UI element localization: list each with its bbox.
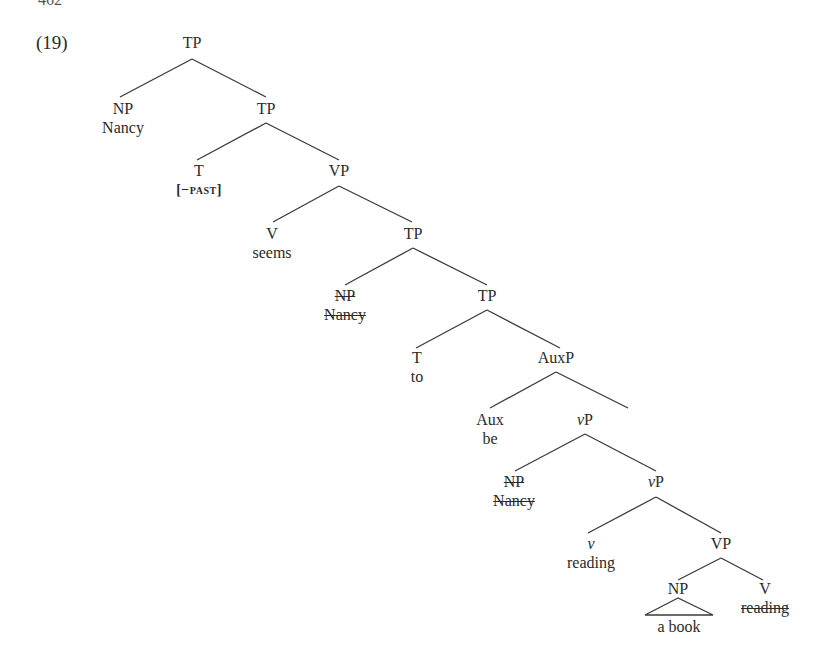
node-label: Aux xyxy=(476,410,504,429)
tree-node-little-vp-1: vP xyxy=(577,410,593,429)
node-label: T xyxy=(411,348,423,367)
node-label: NP xyxy=(102,99,144,118)
tree-node-little-v-reading: v reading xyxy=(567,534,615,572)
node-label: v xyxy=(567,534,615,553)
node-label: V xyxy=(741,579,789,598)
node-word: Nancy xyxy=(102,118,144,137)
tree-node-np-nancy-trace-1: NP Nancy xyxy=(324,286,366,324)
tree-node-t-to: T to xyxy=(411,348,423,386)
node-label: TP xyxy=(183,33,202,52)
node-label: V xyxy=(252,224,291,243)
node-label: vP xyxy=(648,472,664,491)
node-label: TP xyxy=(404,224,423,243)
node-word: [−past] xyxy=(176,180,222,199)
tree-node-v-seems: V seems xyxy=(252,224,291,262)
tree-node-vp-2: VP xyxy=(711,534,731,553)
tree-node-v-reading-trace: V reading xyxy=(741,579,789,617)
tree-node-tp-root: TP xyxy=(183,33,202,52)
tree-node-np-nancy-trace-2: NP Nancy xyxy=(493,472,535,510)
node-word: Nancy xyxy=(324,305,366,324)
node-label: TP xyxy=(478,286,497,305)
node-word: seems xyxy=(252,243,291,262)
np-a-book-word: a book xyxy=(657,617,700,636)
node-word: reading xyxy=(567,553,615,572)
tree-node-little-vp-2: vP xyxy=(648,472,664,491)
tree-node-np-nancy: NP Nancy xyxy=(102,99,144,137)
tree-node-t-past: T [−past] xyxy=(176,161,222,199)
tree-node-vp-1: VP xyxy=(329,161,349,180)
node-label: VP xyxy=(711,534,731,553)
node-word: Nancy xyxy=(493,491,535,510)
node-label: NP xyxy=(324,286,366,305)
node-label: NP xyxy=(493,472,535,491)
tree-node-aux-be: Aux be xyxy=(476,410,504,448)
node-label: T xyxy=(176,161,222,180)
tree-node-auxp: AuxP xyxy=(538,348,574,367)
tree-node-tp-2: TP xyxy=(257,99,276,118)
node-word: be xyxy=(476,429,504,448)
node-label: TP xyxy=(257,99,276,118)
node-label: AuxP xyxy=(538,348,574,367)
node-word: reading xyxy=(741,598,789,617)
node-word: to xyxy=(411,367,423,386)
tree-node-np-a-book: NP xyxy=(668,579,688,598)
node-label: NP xyxy=(668,579,688,598)
node-label: VP xyxy=(329,161,349,180)
tree-node-tp-3: TP xyxy=(404,224,423,243)
node-word: a book xyxy=(657,617,700,636)
node-label: vP xyxy=(577,410,593,429)
tree-node-tp-4: TP xyxy=(478,286,497,305)
